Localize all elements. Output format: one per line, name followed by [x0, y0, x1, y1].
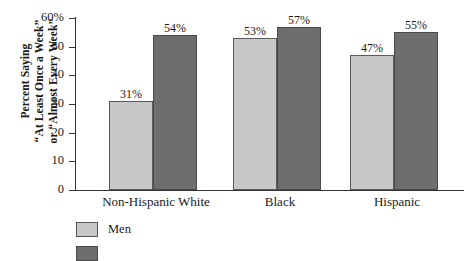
y-tick-label-30: 30: [18, 97, 64, 109]
y-tick-label-60: 60%: [18, 11, 64, 23]
y-tick-label-20: 20: [18, 126, 64, 138]
bar-men-black: [233, 38, 277, 190]
value-label-women-hispanic: 55%: [394, 19, 438, 31]
y-axis-label-line-2: “At Least Once a Week”: [32, 0, 46, 167]
y-tick-label-10: 10: [18, 154, 64, 166]
y-axis-label: Percent Saying “At Least Once a Week” or…: [18, 0, 60, 167]
plot-area: 31% 54% 53% 57% 47% 55%: [75, 18, 464, 190]
value-label-women-black: 57%: [277, 14, 321, 26]
x-category-label-non-hispanic-white: Non-Hispanic White: [89, 194, 223, 209]
bar-women-hispanic: [394, 32, 438, 190]
legend-label-men: Men: [108, 223, 131, 236]
bar-women-black: [277, 27, 321, 190]
bar-women-non-hispanic-white: [153, 35, 197, 190]
x-axis-line: [75, 190, 464, 191]
bar-men-non-hispanic-white: [109, 101, 153, 190]
y-axis-label-line-1: Percent Saying: [18, 0, 32, 167]
value-label-men-hispanic: 47%: [350, 42, 394, 54]
y-tick-label-50: 50: [18, 40, 64, 52]
y-tick-0: [69, 190, 76, 191]
y-tick-label-40: 40: [18, 68, 64, 80]
value-label-women-non-hispanic-white: 54%: [153, 22, 197, 34]
legend-swatch-women: [76, 246, 98, 261]
x-category-label-black: Black: [213, 194, 347, 209]
legend-swatch-men: [76, 222, 98, 237]
bar-men-hispanic: [350, 55, 394, 190]
chart-title-clipped: [70, 0, 410, 3]
value-label-men-non-hispanic-white: 31%: [109, 88, 153, 100]
x-category-label-hispanic: Hispanic: [330, 194, 464, 209]
y-axis-label-line-3: or “Almost Every Week”: [46, 0, 60, 167]
legend-item-men: Men: [76, 222, 131, 237]
y-tick-label-0: 0: [18, 183, 64, 195]
legend-item-women: [76, 246, 108, 261]
value-label-men-black: 53%: [233, 25, 277, 37]
